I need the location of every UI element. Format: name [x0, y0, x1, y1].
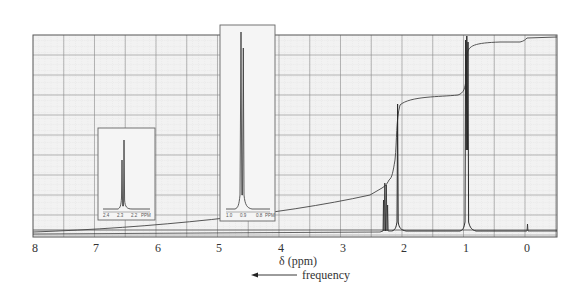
inset-quartet: 2.4 2.3 2.2 PPM	[98, 128, 155, 220]
x-tick-1: 1	[463, 241, 469, 255]
x-tick-2: 2	[401, 241, 407, 255]
x-tick-0: 0	[524, 241, 530, 255]
x-tick-5: 5	[216, 241, 222, 255]
x-axis-title: δ (ppm)	[279, 254, 317, 268]
frequency-annotation: frequency	[251, 268, 350, 282]
x-tick-7: 7	[93, 241, 99, 255]
x-axis: 8 7 6 5 4 3 2 1 0	[32, 241, 530, 255]
x-tick-6: 6	[155, 241, 161, 255]
right-inset-unit: PPM	[265, 213, 275, 218]
frequency-label: frequency	[302, 268, 350, 282]
left-inset-tick-3: 2.2	[131, 213, 138, 218]
x-tick-8: 8	[32, 241, 38, 255]
arrow-head-icon	[251, 273, 258, 278]
left-inset-tick-2: 2.3	[117, 213, 124, 218]
right-inset-tick-2: 0.9	[240, 213, 247, 218]
x-tick-4: 4	[278, 241, 284, 255]
nmr-spectrum-chart: 2.4 2.3 2.2 PPM 1.0 0.9 0.8 PPM 8 7 6 5 …	[0, 0, 587, 293]
left-inset-unit: PPM	[141, 213, 151, 218]
right-inset-tick-1: 1.0	[226, 213, 233, 218]
inset-triplet: 1.0 0.9 0.8 PPM	[220, 25, 275, 221]
x-tick-3: 3	[340, 241, 346, 255]
left-inset-tick-1: 2.4	[103, 213, 110, 218]
right-inset-tick-3: 0.8	[256, 213, 263, 218]
